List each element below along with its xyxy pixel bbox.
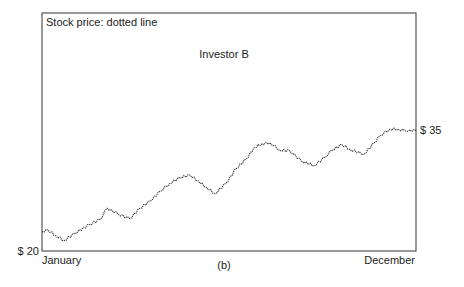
x-tick-label-end: December: [364, 254, 415, 266]
legend-note: Stock price: dotted line: [46, 16, 157, 28]
chart-title: Investor B: [199, 48, 249, 60]
chart: Stock price: dotted line Investor B $ 20…: [0, 0, 464, 287]
series-line-stock-price: [42, 128, 416, 240]
y-tick-label-min: $ 20: [18, 245, 39, 257]
chart-caption: (b): [217, 259, 230, 271]
y-tick-label-max: $ 35: [420, 124, 441, 136]
x-tick-label-start: January: [42, 254, 82, 266]
